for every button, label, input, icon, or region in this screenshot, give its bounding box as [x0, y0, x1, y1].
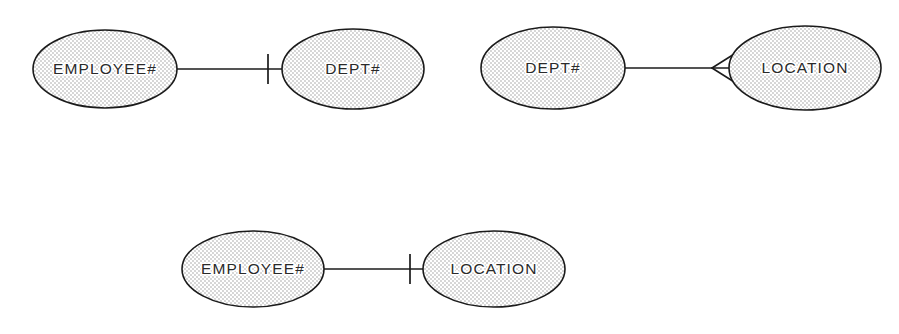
relationship-employee-dept: EMPLOYEE# DEPT# — [33, 29, 424, 109]
diagram-canvas: EMPLOYEE# DEPT# DEPT# LOCATION — [0, 0, 899, 334]
entity-employee-number[interactable]: EMPLOYEE# — [33, 30, 177, 108]
entity-label: LOCATION — [451, 260, 538, 277]
entity-label: EMPLOYEE# — [201, 260, 305, 277]
er-diagram-svg: EMPLOYEE# DEPT# DEPT# LOCATION — [0, 0, 899, 334]
entity-label: LOCATION — [762, 59, 849, 76]
entity-location[interactable]: LOCATION — [729, 26, 881, 110]
entity-label: DEPT# — [525, 59, 580, 76]
entity-employee-number[interactable]: EMPLOYEE# — [182, 231, 324, 307]
entity-dept-number[interactable]: DEPT# — [282, 29, 424, 109]
entity-location[interactable]: LOCATION — [423, 231, 565, 307]
relationship-employee-location: EMPLOYEE# LOCATION — [182, 231, 565, 307]
entity-label: EMPLOYEE# — [53, 60, 157, 77]
entity-label: DEPT# — [325, 60, 380, 77]
relationship-dept-location: DEPT# LOCATION — [481, 26, 881, 110]
entity-dept-number[interactable]: DEPT# — [481, 27, 625, 109]
